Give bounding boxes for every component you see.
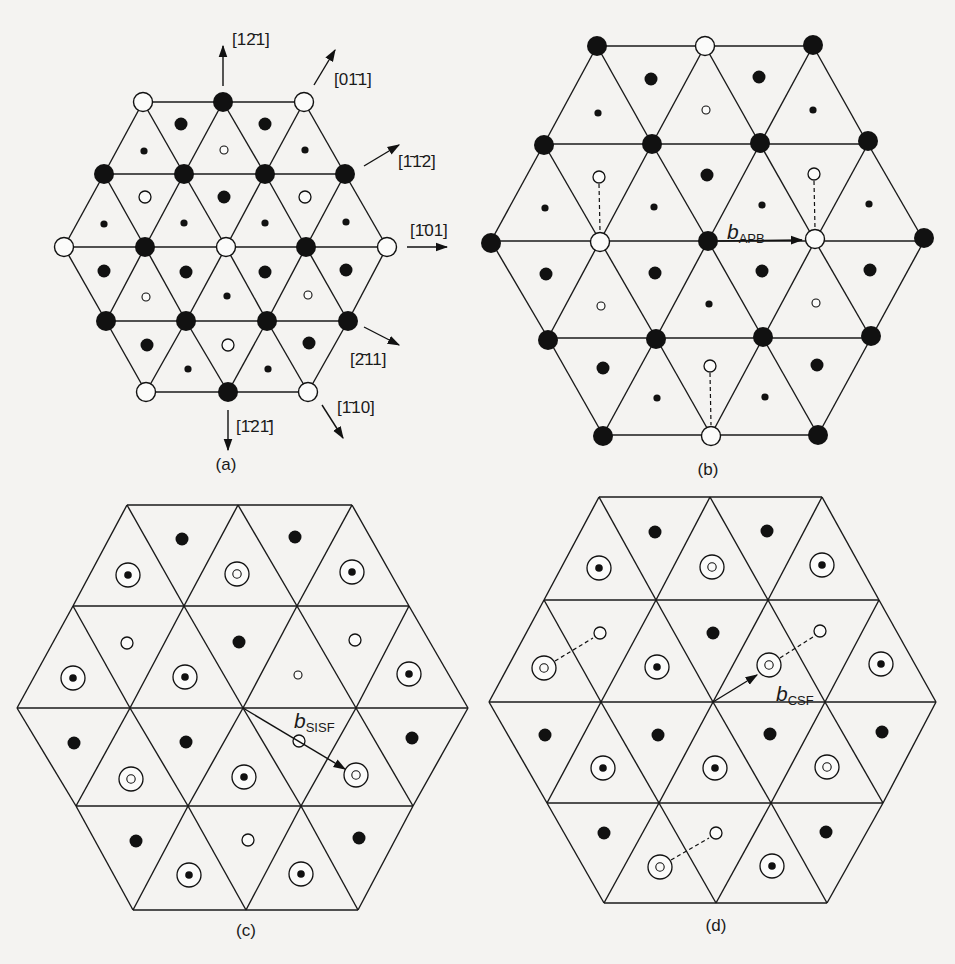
atom-large-open-icon (134, 93, 153, 112)
atom-superposed-filled-icon (340, 560, 364, 584)
atom-medium-open-icon (704, 360, 716, 372)
burgers-vector-label: bAPB (727, 220, 765, 246)
displacement-dashed-line (780, 637, 813, 658)
atom-superposed-open-icon (815, 755, 839, 779)
miller-index-label: [1̄21̄] (236, 417, 274, 436)
atom-large-filled-icon (534, 135, 554, 155)
crystal-directions: [12̄1][01̄1][1̄1̄2][1̄01][2̄11][1̄10][1̄… (223, 30, 448, 450)
atom-medium-filled-icon (701, 169, 714, 182)
atom-superposed-open-icon (700, 555, 724, 579)
atom-small-open-icon (220, 146, 228, 154)
atom-large-filled-icon (587, 36, 607, 56)
atom-medium-filled-icon (649, 526, 662, 539)
atom-superposed-filled-icon (703, 756, 727, 780)
atom-superposed-filled-icon (760, 854, 784, 878)
atom-small-filled-icon (301, 146, 308, 153)
atom-superposed-filled-icon (587, 556, 611, 580)
atom-superposed-filled-icon (116, 563, 140, 587)
atom-superposed-filled-icon (289, 862, 313, 886)
atom-large-filled-icon (753, 327, 773, 347)
atom-small-filled-icon (342, 218, 349, 225)
atom-medium-filled-icon (652, 729, 665, 742)
atom-small-filled-icon (140, 147, 147, 154)
atom-medium-filled-icon (175, 118, 188, 131)
atom-medium-filled-icon (876, 726, 889, 739)
atom-large-filled-icon (176, 311, 196, 331)
displacement-dashed-line (599, 184, 600, 231)
atom-large-filled-icon (698, 231, 718, 251)
atom-medium-filled-icon (645, 73, 658, 86)
atom-medium-filled-icon (130, 835, 143, 848)
atom-small-filled-icon (809, 106, 816, 113)
miller-index-label: [01̄1] (334, 70, 372, 89)
atom-large-open-icon (591, 233, 610, 252)
atom-small-filled-icon (541, 204, 548, 211)
atom-medium-filled-icon (340, 264, 353, 277)
atom-medium-filled-icon (539, 729, 552, 742)
direction-arrow-icon (364, 327, 399, 345)
atom-medium-filled-icon (68, 737, 81, 750)
atom-large-filled-icon (338, 311, 358, 331)
atom-superposed-open-icon (344, 763, 368, 787)
atom-small-filled-icon (865, 200, 872, 207)
panel-caption: (b) (698, 460, 719, 479)
atom-small-filled-icon (261, 219, 268, 226)
atom-large-filled-icon (481, 233, 501, 253)
atom-large-filled-icon (135, 237, 155, 257)
atom-large-filled-icon (335, 164, 355, 184)
atom-superposed-open-icon (119, 767, 143, 791)
atom-large-filled-icon (750, 133, 770, 153)
atom-medium-filled-icon (764, 728, 777, 741)
atom-medium-filled-icon (761, 525, 774, 538)
panel-a-perfect-stacking: (a)[12̄1][01̄1][1̄1̄2][1̄01][2̄11][1̄10]… (55, 30, 448, 474)
atom-large-filled-icon (257, 311, 277, 331)
atom-small-filled-icon (653, 394, 660, 401)
miller-index-label: [1̄1̄2] (398, 152, 436, 171)
atom-medium-filled-icon (233, 636, 246, 649)
atom-large-filled-icon (94, 164, 114, 184)
atom-small-open-icon (812, 299, 820, 307)
atom-medium-open-icon (710, 827, 722, 839)
atom-superposed-open-icon (757, 653, 781, 677)
atom-superposed-filled-icon (61, 666, 85, 690)
atom-small-open-icon (304, 291, 312, 299)
atom-large-open-icon (217, 238, 236, 257)
atom-medium-filled-icon (406, 732, 419, 745)
atom-medium-filled-icon (864, 264, 877, 277)
atom-small-filled-icon (223, 292, 230, 299)
burgers-vector-csf: bCSF (713, 675, 814, 708)
crystal-stacking-figure: (a)[12̄1][01̄1][1̄1̄2][1̄01][2̄11][1̄10]… (0, 0, 955, 964)
atom-superposed-filled-icon (173, 665, 197, 689)
miller-index-label: [1̄10] (337, 398, 375, 417)
displacement-dashed-line (710, 373, 711, 425)
direction-arrow-icon (364, 145, 399, 166)
atom-medium-open-icon (593, 171, 605, 183)
miller-index-label: [12̄1] (232, 30, 270, 49)
direction-arrow-icon (314, 50, 335, 85)
atom-large-filled-icon (642, 134, 662, 154)
atom-medium-filled-icon (289, 531, 302, 544)
panel-caption: (d) (706, 916, 727, 935)
atom-large-filled-icon (858, 131, 878, 151)
atom-large-filled-icon (593, 426, 613, 446)
atom-small-filled-icon (705, 300, 712, 307)
atom-large-open-icon (137, 383, 156, 402)
atom-medium-filled-icon (811, 359, 824, 372)
atom-large-filled-icon (914, 228, 934, 248)
atom-superposed-filled-icon (869, 652, 893, 676)
atom-superposed-filled-icon (177, 863, 201, 887)
atom-large-filled-icon (538, 330, 558, 350)
miller-index-label: [1̄01] (410, 221, 448, 240)
atom-large-filled-icon (296, 237, 316, 257)
atom-medium-filled-icon (353, 832, 366, 845)
panel-c-superlattice-intrinsic-stacking-fault: bSISF(c) (17, 505, 468, 940)
atom-small-filled-icon (758, 201, 765, 208)
atom-superposed-open-icon (532, 656, 556, 680)
burgers-vector-sisf: bSISF (243, 708, 345, 769)
atom-medium-filled-icon (180, 266, 193, 279)
atom-large-open-icon (806, 230, 825, 249)
panel-d-complex-stacking-fault: bCSF(d) (489, 497, 936, 935)
atom-medium-filled-icon (820, 826, 833, 839)
atom-large-open-icon (378, 238, 397, 257)
atom-small-filled-icon (594, 109, 601, 116)
